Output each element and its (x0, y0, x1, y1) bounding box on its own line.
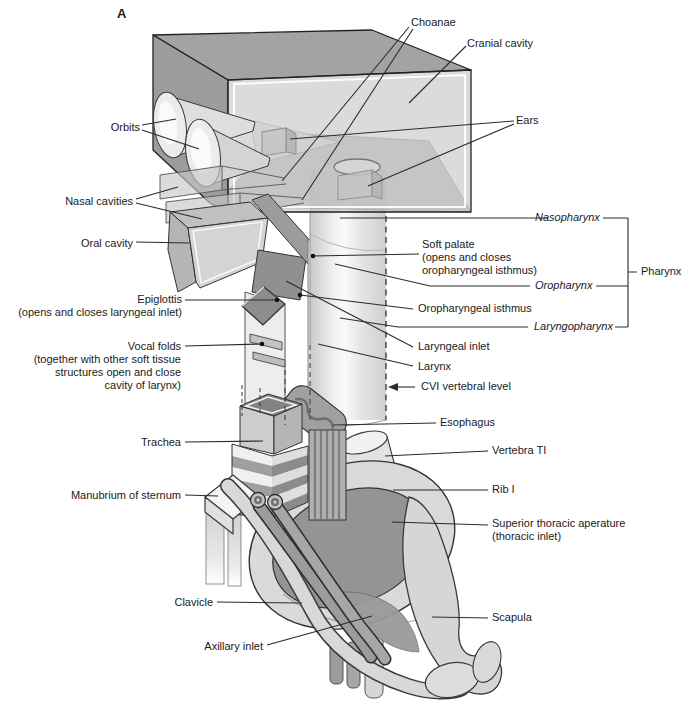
label-vertebra-t1: Vertebra TI (492, 444, 546, 457)
label-trachea: Trachea (141, 436, 181, 449)
label-nasal-cavities: Nasal cavities (65, 195, 133, 208)
label-line: structures open and close (34, 366, 181, 379)
label-epiglottis: Epiglottis (opens and closes laryngeal i… (18, 293, 182, 319)
oral-cavity-box (168, 202, 268, 292)
label-line: (opens and closes (422, 251, 537, 264)
label-cvi-level: CVI vertebral level (421, 380, 511, 393)
label-rib-1: Rib I (492, 483, 515, 496)
label-orbits: Orbits (111, 121, 140, 134)
label-line: (together with other soft tissue (34, 353, 181, 366)
label-laryngeal-inlet: Laryngeal inlet (418, 340, 490, 353)
label-esophagus: Esophagus (440, 416, 495, 429)
label-vocal-folds: Vocal folds (together with other soft ti… (34, 340, 181, 392)
label-line: Vocal folds (34, 340, 181, 353)
label-line: Superior thoracic aperature (492, 517, 625, 530)
label-oral-cavity: Oral cavity (81, 237, 133, 250)
leader-vertebra-t1 (385, 451, 488, 456)
label-line: (thoracic inlet) (492, 530, 625, 543)
leader-esophagus (333, 423, 436, 425)
label-superior-thoracic-aperture: Superior thoracic aperature (thoracic in… (492, 517, 625, 543)
label-oropharynx: Oropharynx (535, 279, 592, 292)
label-larynx: Larynx (418, 360, 451, 373)
label-manubrium: Manubrium of sternum (71, 489, 181, 502)
label-soft-palate: Soft palate (opens and closes oropharyng… (422, 238, 537, 277)
panel-label: A (117, 7, 126, 20)
label-clavicle: Clavicle (174, 596, 213, 609)
label-ears: Ears (516, 114, 539, 127)
label-nasopharynx: Nasopharynx (535, 211, 600, 224)
label-axillary-inlet: Axillary inlet (204, 640, 263, 653)
pharynx-bracket (628, 218, 637, 327)
label-line: (opens and closes laryngeal inlet) (18, 306, 182, 319)
figure-panel: A Choanae Cranial cavity Orbits Ears Nas… (0, 0, 700, 717)
label-choanae: Choanae (411, 16, 456, 29)
label-cranial-cavity: Cranial cavity (467, 37, 533, 50)
label-oropharyngeal-isthmus: Oropharyngeal isthmus (418, 302, 532, 315)
label-line: Epiglottis (18, 293, 182, 306)
cvi-arrowhead (388, 383, 398, 391)
label-pharynx: Pharynx (641, 265, 681, 278)
label-scapula: Scapula (492, 611, 532, 624)
label-laryngopharynx: Laryngopharynx (534, 320, 613, 333)
label-line: oropharyngeal isthmus) (422, 264, 537, 277)
label-line: Soft palate (422, 238, 537, 251)
label-line: cavity of larynx) (34, 379, 181, 392)
